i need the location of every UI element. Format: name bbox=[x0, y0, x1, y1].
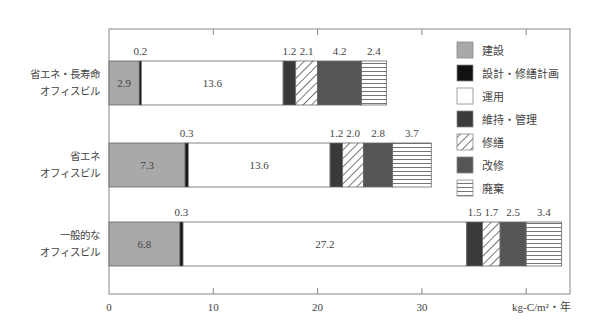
legend-label: 維持・管理 bbox=[482, 113, 537, 127]
bar-segment bbox=[363, 143, 392, 187]
value-label: 7.3 bbox=[140, 159, 154, 171]
legend-label: 運用 bbox=[482, 91, 504, 104]
bar-segment bbox=[393, 143, 432, 187]
value-label: 1.2 bbox=[283, 45, 297, 57]
bar-segment bbox=[467, 222, 483, 266]
category-label: オフィスビル bbox=[40, 85, 100, 97]
value-label: 0.3 bbox=[175, 206, 189, 218]
value-label: 2.0 bbox=[346, 127, 360, 139]
legend-swatch-icon bbox=[457, 88, 473, 104]
bar-segment bbox=[526, 222, 561, 266]
category-label: 一般的な bbox=[60, 229, 100, 241]
bar-row: 省エネ・長寿命オフィスビル2.90.213.61.22.14.22.4 bbox=[30, 45, 386, 105]
legend-swatch-icon bbox=[457, 65, 473, 81]
x-tick-label: 30 bbox=[416, 301, 428, 313]
legend-swatch-icon bbox=[457, 180, 473, 196]
legend-swatch-icon bbox=[457, 134, 473, 150]
x-tick-label: 20 bbox=[312, 301, 324, 313]
legend-label: 修繕 bbox=[482, 136, 504, 150]
legend-swatch-icon bbox=[457, 111, 473, 127]
bar-row: 省エネオフィスビル7.30.313.61.22.02.83.7 bbox=[40, 127, 431, 187]
x-tick-label: 0 bbox=[106, 301, 112, 313]
bar-segment bbox=[361, 61, 386, 105]
legend: 建設設計・修繕計画運用維持・管理修繕改修廃棄 bbox=[457, 42, 559, 196]
legend-swatch-icon bbox=[457, 157, 473, 173]
bar-segment bbox=[185, 143, 188, 187]
bar-segment bbox=[283, 61, 296, 105]
category-label: オフィスビル bbox=[40, 167, 100, 179]
value-label: 2.4 bbox=[367, 45, 381, 57]
value-label: 13.6 bbox=[203, 77, 223, 89]
stacked-bar-chart: 0102030 省エネ・長寿命オフィスビル2.90.213.61.22.14.2… bbox=[0, 0, 605, 332]
legend-label: 改修 bbox=[482, 159, 504, 173]
legend-label: 廃棄 bbox=[482, 182, 504, 196]
legend-swatch-icon bbox=[457, 42, 473, 58]
x-axis-label: kg-C/m²・年 bbox=[512, 300, 571, 313]
value-label: 13.6 bbox=[250, 159, 270, 171]
bar-segment bbox=[482, 222, 500, 266]
bar-segment bbox=[343, 143, 364, 187]
value-label: 4.2 bbox=[333, 45, 347, 57]
bar-segment bbox=[318, 61, 362, 105]
value-label: 1.7 bbox=[484, 206, 498, 218]
value-label: 3.4 bbox=[537, 206, 551, 218]
bar-segment bbox=[296, 61, 318, 105]
value-label: 1.2 bbox=[329, 127, 343, 139]
value-label: 2.5 bbox=[506, 206, 520, 218]
category-label: オフィスビル bbox=[40, 246, 100, 258]
value-label: 0.2 bbox=[133, 45, 147, 57]
value-label: 2.8 bbox=[371, 127, 385, 139]
legend-label: 建設 bbox=[482, 44, 504, 58]
value-label: 0.3 bbox=[180, 127, 194, 139]
bar-segment bbox=[330, 143, 343, 187]
value-label: 1.5 bbox=[468, 206, 482, 218]
value-label: 6.8 bbox=[138, 238, 152, 250]
value-label: 2.9 bbox=[117, 77, 131, 89]
bar-segment bbox=[180, 222, 183, 266]
bar-segment bbox=[500, 222, 526, 266]
value-label: 27.2 bbox=[315, 238, 334, 250]
value-label: 3.7 bbox=[405, 127, 419, 139]
category-label: 省エネ bbox=[70, 150, 100, 162]
x-tick-label: 10 bbox=[208, 301, 220, 313]
legend-label: 設計・修繕計画 bbox=[482, 67, 559, 81]
bar-row: 一般的なオフィスビル6.80.327.21.51.72.53.4 bbox=[40, 206, 562, 266]
value-label: 2.1 bbox=[300, 45, 314, 57]
category-label: 省エネ・長寿命 bbox=[30, 68, 101, 80]
